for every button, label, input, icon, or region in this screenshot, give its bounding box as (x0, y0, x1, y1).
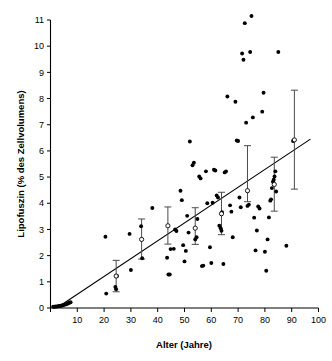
data-point (255, 229, 259, 233)
data-point (188, 140, 192, 144)
mean-marker (292, 138, 296, 142)
data-point (263, 250, 267, 254)
data-point (237, 196, 241, 200)
data-point (168, 273, 172, 277)
regression-line (59, 139, 311, 307)
data-point (216, 196, 220, 200)
y-tick-label: 5 (39, 172, 44, 182)
data-point (242, 58, 246, 62)
data-point (251, 115, 255, 119)
x-tick-label: 80 (260, 315, 270, 325)
error-bars-group (113, 90, 298, 292)
data-point (192, 161, 196, 165)
data-point (225, 95, 229, 99)
x-tick-label: 60 (206, 315, 216, 325)
data-point (224, 169, 228, 173)
data-point (172, 247, 176, 251)
data-point (220, 229, 224, 233)
y-axis: 01234567891011 (34, 15, 51, 313)
data-point (243, 21, 247, 25)
y-tick-label: 7 (39, 120, 44, 130)
data-point (267, 215, 271, 219)
data-point (262, 91, 266, 95)
mean-marker (166, 224, 170, 228)
data-point (128, 232, 132, 236)
data-point (179, 189, 183, 193)
data-point (195, 235, 199, 239)
x-tick-label: 100 (311, 315, 326, 325)
x-tick-label: 10 (72, 315, 82, 325)
data-point (195, 217, 199, 221)
x-tick-label: 50 (179, 315, 189, 325)
y-tick-label: 0 (39, 303, 44, 313)
x-axis-title: Alter (Jahre) (156, 339, 212, 350)
mean-marker (245, 189, 249, 193)
y-axis-title: Lipofuszin (% des Zellvolumens) (15, 90, 26, 237)
data-point (184, 249, 188, 253)
x-tick-label: 70 (233, 315, 243, 325)
y-tick-label: 1 (39, 277, 44, 287)
y-tick-label: 2 (39, 251, 44, 261)
data-point (274, 190, 278, 194)
data-point (199, 176, 203, 180)
data-point (228, 203, 232, 207)
mean-marker (114, 274, 118, 278)
data-point (213, 169, 217, 173)
data-point (140, 256, 144, 260)
data-point (233, 100, 237, 104)
x-tick-label: 90 (287, 315, 297, 325)
data-point (139, 224, 143, 228)
x-tick-label: 30 (126, 315, 136, 325)
data-point (165, 256, 169, 260)
mean-marker (272, 182, 276, 186)
data-point (239, 205, 243, 209)
mean-marker (193, 226, 197, 230)
y-tick-label: 6 (39, 146, 44, 156)
data-point (114, 287, 118, 291)
data-point (201, 264, 205, 268)
x-axis: 102030405060708090100 (51, 308, 327, 325)
data-point (247, 203, 251, 207)
data-point (69, 300, 73, 304)
x-tick-label: 20 (99, 315, 109, 325)
lipofuscin-age-scatter-chart: Lipofuszin (% des Zellvolumens) Alter (J… (0, 0, 332, 361)
data-point (208, 245, 212, 249)
y-tick-label: 9 (39, 68, 44, 78)
data-point (180, 198, 184, 202)
data-point (260, 110, 264, 114)
mean-marker (140, 237, 144, 241)
mean-marker (219, 212, 223, 216)
y-tick-label: 8 (39, 94, 44, 104)
data-point (273, 175, 277, 179)
data-point (273, 169, 277, 173)
data-point (211, 201, 215, 205)
chart-canvas: Lipofuszin (% des Zellvolumens) Alter (J… (0, 0, 332, 361)
data-point (104, 292, 108, 296)
data-point (175, 229, 179, 233)
data-point (258, 207, 262, 211)
data-point (150, 206, 154, 210)
data-points-group (51, 14, 295, 309)
data-point (252, 216, 256, 220)
data-point (229, 210, 233, 214)
data-point (254, 248, 258, 252)
data-point (204, 169, 208, 173)
y-tick-label: 3 (39, 225, 44, 235)
data-point (244, 121, 248, 125)
y-tick-label: 10 (34, 41, 44, 51)
data-point (266, 237, 270, 241)
data-point (276, 50, 280, 54)
data-point (236, 139, 240, 143)
data-point (231, 235, 235, 239)
data-point (284, 244, 288, 248)
data-point (221, 262, 225, 266)
data-point (129, 268, 133, 272)
data-point (181, 243, 185, 247)
y-tick-label: 11 (35, 15, 44, 25)
regression-line-group (59, 139, 311, 307)
y-tick-label: 4 (39, 198, 44, 208)
data-point (205, 201, 209, 205)
data-point (103, 235, 107, 239)
x-tick-label: 40 (153, 315, 163, 325)
data-point (185, 214, 189, 218)
